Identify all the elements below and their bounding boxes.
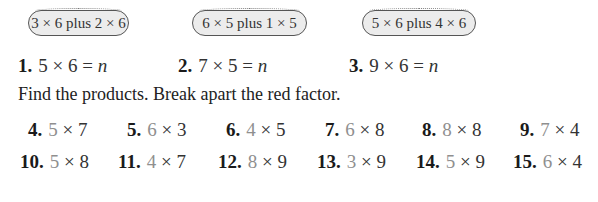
factor: 9 [277, 151, 287, 172]
exercise-7: 7.6 × 8 [325, 119, 384, 141]
red-factor: 5 [446, 151, 456, 172]
exercise-6: 6.4 × 5 [226, 119, 285, 141]
times-sign: × [460, 151, 471, 172]
times-sign: × [361, 151, 372, 172]
red-factor: 7 [540, 119, 550, 140]
exercise-number: 14. [416, 151, 440, 172]
times-sign: × [360, 119, 371, 140]
factor: 9 [475, 151, 485, 172]
red-factor: 3 [347, 151, 357, 172]
factor: 9 [369, 55, 379, 76]
exercise-8: 8.8 × 8 [422, 119, 481, 141]
problem-number: 2. [178, 55, 192, 76]
factor: 3 [177, 119, 187, 140]
times-sign: × [64, 151, 75, 172]
exercise-number: 7. [325, 119, 339, 140]
exercise-15: 15.6 × 4 [513, 151, 582, 173]
times-sign: × [261, 119, 272, 140]
variable: n [429, 55, 439, 76]
exercise-number: 12. [218, 151, 242, 172]
red-factor: 4 [246, 119, 256, 140]
hint-text: 3 × 6 plus 2 × 6 [31, 15, 125, 31]
exercise-9: 9.7 × 4 [520, 119, 579, 141]
times-sign: × [555, 119, 566, 140]
factor: 4 [570, 119, 580, 140]
problem-number: 3. [349, 55, 363, 76]
exercise-number: 13. [317, 151, 341, 172]
equals-sign: = [242, 55, 253, 76]
problem-number: 1. [18, 55, 32, 76]
exercise-number: 5. [127, 119, 141, 140]
variable: n [258, 55, 268, 76]
exercise-number: 10. [20, 151, 44, 172]
red-factor: 5 [48, 119, 58, 140]
hint-bubble-2: 6 × 5 plus 1 × 5 [192, 10, 307, 36]
exercise-11: 11.4 × 7 [118, 151, 186, 173]
exercise-number: 6. [226, 119, 240, 140]
problem-2: 2.7 × 5 = n [178, 55, 267, 77]
red-factor: 6 [543, 151, 553, 172]
exercise-number: 15. [513, 151, 537, 172]
hint-text: 6 × 5 plus 1 × 5 [202, 15, 296, 31]
instruction-text: Find the products. Break apart the red f… [18, 84, 340, 105]
times-sign: × [63, 119, 74, 140]
factor: 6 [399, 55, 409, 76]
factor: 5 [228, 55, 238, 76]
factor: 5 [38, 55, 48, 76]
exercise-4: 4.5 × 7 [28, 119, 87, 141]
red-factor: 6 [147, 119, 157, 140]
factor: 7 [78, 119, 88, 140]
factor: 8 [79, 151, 89, 172]
factor: 4 [572, 151, 582, 172]
problem-3: 3.9 × 6 = n [349, 55, 438, 77]
hint-bubble-3: 5 × 6 plus 4 × 6 [362, 10, 476, 36]
times-sign: × [162, 119, 173, 140]
times-sign: × [557, 151, 568, 172]
times-sign: × [384, 55, 395, 76]
exercise-14: 14.5 × 9 [416, 151, 485, 173]
exercise-10: 10.5 × 8 [20, 151, 89, 173]
times-sign: × [457, 119, 468, 140]
factor: 7 [198, 55, 208, 76]
hint-bubble-1: 3 × 6 plus 2 × 6 [28, 10, 129, 36]
factor: 5 [276, 119, 286, 140]
factor: 6 [68, 55, 78, 76]
red-factor: 8 [442, 119, 452, 140]
times-sign: × [161, 151, 172, 172]
factor: 9 [376, 151, 386, 172]
exercise-number: 4. [28, 119, 42, 140]
variable: n [98, 55, 108, 76]
red-factor: 4 [147, 151, 157, 172]
exercise-13: 13.3 × 9 [317, 151, 386, 173]
factor: 7 [176, 151, 186, 172]
factor: 8 [472, 119, 482, 140]
exercise-number: 11. [118, 151, 141, 172]
red-factor: 5 [50, 151, 60, 172]
equals-sign: = [413, 55, 424, 76]
times-sign: × [262, 151, 273, 172]
problem-1: 1.5 × 6 = n [18, 55, 107, 77]
equals-sign: = [82, 55, 93, 76]
exercise-number: 9. [520, 119, 534, 140]
hint-text: 5 × 6 plus 4 × 6 [372, 15, 466, 31]
exercise-12: 12.8 × 9 [218, 151, 287, 173]
red-factor: 6 [345, 119, 355, 140]
times-sign: × [53, 55, 64, 76]
exercise-number: 8. [422, 119, 436, 140]
exercise-5: 5.6 × 3 [127, 119, 186, 141]
times-sign: × [213, 55, 224, 76]
red-factor: 8 [248, 151, 258, 172]
factor: 8 [375, 119, 385, 140]
